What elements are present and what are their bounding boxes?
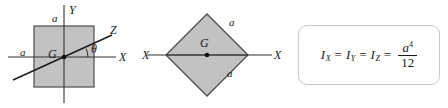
axis-x-label-left: X [142,49,149,61]
axis-y-label: Y [69,4,76,16]
centroid-label: G [200,37,209,49]
i-y-term: IY [346,47,355,63]
moment-of-inertia-figure: Y X Z a a G θ X X a a G IX = IY [0,0,448,108]
i-z-subscript: Z [375,54,379,63]
centroid-label: G [48,48,57,60]
formula-expression: IX = IY = IZ = a4 12 [321,41,417,70]
formula-box: IX = IY = IZ = a4 12 [298,25,440,85]
axis-z-label: Z [110,24,117,36]
side-label-top: a [52,13,58,24]
panel-formula: IX = IY = IZ = a4 12 [290,0,448,108]
panel-rotated-square-cross-section: X X a a G [140,0,290,108]
i-y-symbol: I [346,47,350,62]
centroid-point [62,55,67,60]
axis-x-label-right: X [274,49,281,61]
side-label-lower: a [227,68,233,79]
equals-sign-3: = [384,47,391,63]
i-z-term: IZ [371,47,380,63]
axis-x-label: X [119,51,126,63]
i-y-subscript: Y [351,54,355,63]
centroid-point [205,53,210,58]
fraction: a4 12 [398,41,417,70]
panel-square-cross-section: Y X Z a a G θ [0,0,140,108]
i-x-subscript: X [326,54,331,63]
equals-sign-2: = [359,47,366,63]
fraction-numerator: a4 [399,41,416,55]
i-x-term: IX [321,47,331,63]
side-label-left: a [20,47,26,58]
equals-sign-1: = [335,47,342,63]
numerator-exponent: 4 [409,40,413,49]
i-x-symbol: I [321,47,325,62]
diamond-diagram-svg [140,0,290,108]
angle-label: θ [91,43,97,55]
side-label-upper: a [229,17,235,28]
fraction-denominator: 12 [398,56,417,70]
